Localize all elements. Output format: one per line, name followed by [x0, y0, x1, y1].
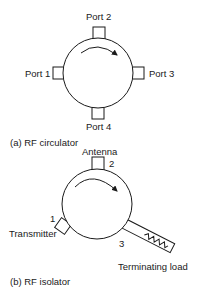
circulator-port-2-box: [93, 27, 105, 39]
circulator-port-4-label: Port 4: [86, 121, 111, 132]
circulator-port-2-label: Port 2: [86, 11, 111, 22]
isolator-diagram: Antenna 2 1 Transmitter 3 Terminating lo…: [9, 146, 188, 287]
isolator-caption: (b) RF isolator: [10, 276, 70, 287]
isolator-antenna-label: Antenna: [82, 146, 118, 157]
circulator-port-3-box: [132, 67, 144, 79]
circulator-port-1-label: Port 1: [25, 68, 50, 79]
isolator-load-label: Terminating load: [118, 261, 188, 272]
circulator-ring: [63, 38, 133, 108]
isolator-port-3-number: 3: [119, 238, 124, 249]
isolator-transmitter-label: Transmitter: [9, 228, 57, 239]
circulator-caption: (a) RF circulator: [10, 137, 78, 148]
isolator-antenna-port-box: [92, 157, 104, 170]
isolator-load-arm: [121, 219, 175, 253]
rf-diagram: Port 2 Port 1 Port 3 Port 4 (a) RF circu…: [0, 0, 201, 291]
isolator-port-1-number: 1: [50, 213, 55, 224]
circulator-port-3-label: Port 3: [149, 68, 174, 79]
circulator-diagram: Port 2 Port 1 Port 3 Port 4 (a) RF circu…: [10, 11, 174, 148]
circulator-port-4-box: [92, 107, 104, 119]
isolator-port-2-number: 2: [109, 158, 114, 169]
